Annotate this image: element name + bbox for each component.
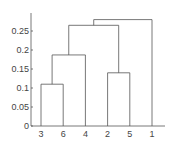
y-tick-label: 0.15: [11, 64, 29, 74]
dendrogram-chart: 00.050.10.150.20.25364251: [0, 0, 171, 141]
axes: 00.050.10.150.20.25364251: [11, 13, 165, 139]
dendrogram-links: [41, 20, 152, 126]
x-tick-label: 4: [83, 129, 88, 139]
y-tick-label: 0.2: [16, 45, 29, 55]
y-tick-label: 0.1: [16, 83, 29, 93]
x-tick-label: 3: [38, 129, 43, 139]
x-tick-label: 6: [61, 129, 66, 139]
y-tick-label: 0: [24, 121, 29, 131]
x-tick-label: 2: [105, 129, 110, 139]
dendrogram-plot: 00.050.10.150.20.25364251: [0, 0, 171, 141]
y-tick-label: 0.25: [11, 26, 29, 36]
x-tick-label: 1: [149, 129, 154, 139]
x-tick-label: 5: [127, 129, 132, 139]
y-tick-label: 0.05: [11, 102, 29, 112]
